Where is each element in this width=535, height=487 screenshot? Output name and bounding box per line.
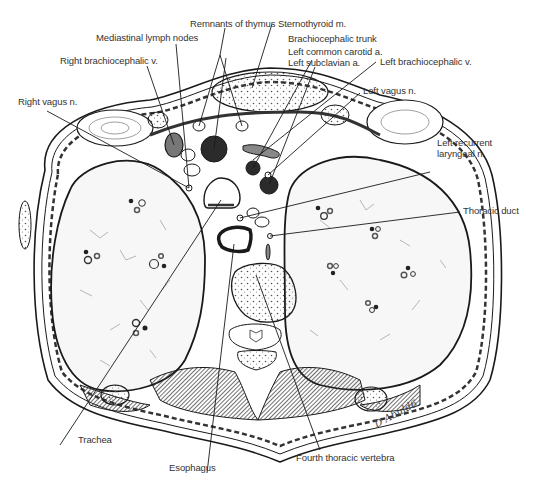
- label-sternothyroid: Sternothyroid m.: [278, 18, 346, 29]
- label-mediastinal-lymph-nodes: Mediastinal lymph nodes: [96, 32, 198, 43]
- label-esophagus: Esophagus: [169, 462, 216, 473]
- label-thoracic-duct: Thoracic duct: [463, 205, 519, 216]
- label-fourth-thoracic-vertebra: Fourth thoracic vertebra: [296, 452, 394, 463]
- left-lung: [284, 157, 471, 390]
- label-remnants-of-thymus: Remnants of thymus: [190, 18, 275, 29]
- right-lung: [51, 161, 205, 392]
- label-left-recurrent-laryngeal-line1: Left recurrent: [437, 137, 492, 148]
- label-left-common-carotid: Left common carotid a.: [288, 46, 382, 57]
- thorax-cross-section-diagram: [0, 0, 535, 487]
- label-brachiocephalic-trunk: Brachiocephalic trunk: [288, 33, 377, 44]
- label-left-vagus-n: Left vagus n.: [363, 85, 416, 96]
- label-right-vagus-n: Right vagus n.: [18, 96, 77, 107]
- label-left-brachiocephalic-v: Left brachiocephalic v.: [380, 56, 472, 67]
- label-trachea: Trachea: [78, 434, 112, 445]
- label-right-brachiocephalic-v: Right brachiocephalic v.: [60, 55, 158, 66]
- label-left-subclavian: Left subclavian a.: [288, 57, 360, 68]
- label-left-recurrent-laryngeal-line2: laryngeal n.: [437, 148, 485, 159]
